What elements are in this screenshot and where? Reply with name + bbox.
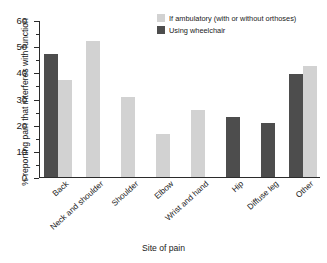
y-tick-minor [36, 165, 39, 166]
bar [226, 117, 240, 177]
x-category-label: Back [51, 180, 70, 198]
y-tick-minor [36, 139, 39, 140]
x-category-label: Other [295, 180, 316, 200]
bar-group [251, 21, 286, 177]
y-tick-minor [36, 34, 39, 35]
bar-group [181, 21, 216, 177]
bar-group [216, 21, 251, 177]
bar-group [145, 21, 180, 177]
x-category-label: Diffuse leg [247, 180, 281, 212]
bar-group [75, 21, 110, 177]
bar [289, 74, 303, 177]
y-tick-minor [36, 113, 39, 114]
x-axis-category-labels: BackNeck and shoulderShoulderElbowWrist … [39, 180, 320, 238]
x-category-label: Shoulder [110, 180, 140, 208]
y-tick-major: 20 [34, 126, 39, 127]
bar [156, 134, 170, 177]
y-tick-major: 50 [34, 47, 39, 48]
y-tick-minor [36, 60, 39, 61]
y-axis-title: % reporting pain that interferes with fu… [20, 17, 30, 187]
bar [44, 54, 58, 177]
bars-layer [40, 21, 320, 177]
x-category-label: Hip [231, 180, 246, 194]
bar-group [286, 21, 321, 177]
x-axis-line [39, 177, 320, 178]
y-tick-major: 30 [34, 100, 39, 101]
bar-group [40, 21, 75, 177]
x-axis-title: Site of pain [0, 243, 327, 253]
bar [86, 41, 100, 177]
plot-area: 0102030405060 [39, 21, 320, 178]
y-tick-major: 40 [34, 73, 39, 74]
bar-group [110, 21, 145, 177]
bar-chart: If ambulatory (with or without orthoses)… [0, 0, 327, 263]
x-category-label: Elbow [153, 180, 175, 201]
bar [303, 66, 317, 177]
y-tick-minor [36, 86, 39, 87]
y-tick-major: 60 [34, 21, 39, 22]
bar [121, 97, 135, 177]
bar [58, 80, 72, 177]
bar [191, 110, 205, 177]
bar [261, 123, 275, 177]
y-tick-major: 10 [34, 152, 39, 153]
y-tick-major: 0 [34, 178, 39, 179]
